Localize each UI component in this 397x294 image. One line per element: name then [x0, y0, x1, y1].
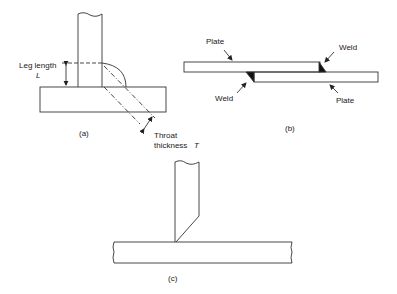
figure-a-fillet-weld — [40, 13, 166, 129]
weld-left — [246, 72, 254, 82]
plate-bottom-label: Plate — [336, 96, 355, 105]
weld-left-label: Weld — [215, 94, 233, 103]
plate-top-label: Plate — [206, 37, 225, 46]
base-plate-c — [113, 242, 292, 263]
bottom-plate — [254, 72, 378, 82]
top-plate — [184, 62, 320, 72]
caption-c: (c) — [168, 274, 178, 283]
vertical-member — [78, 13, 102, 87]
caption-a: (a) — [79, 129, 89, 138]
leg-length-symbol: L — [36, 71, 40, 80]
weld-right-label: Weld — [339, 43, 357, 52]
caption-b: (b) — [285, 124, 295, 133]
throat-dashed-2 — [104, 66, 155, 118]
base-plate — [40, 87, 166, 112]
weld-diagrams: Leg length L Throat thickness T (a) Plat… — [0, 0, 397, 294]
leg-length-label: Leg length — [19, 61, 56, 70]
figure-b-lap-joint — [184, 50, 378, 93]
throat-dim-arrow — [144, 117, 152, 129]
weld-right — [319, 62, 326, 72]
figure-c-bevel-joint — [113, 161, 292, 263]
fillet-weld-arc — [102, 63, 126, 87]
throat-label: Throat — [154, 131, 178, 140]
throat-dashed-1 — [104, 87, 140, 124]
beveled-member — [175, 161, 199, 242]
throat-label-2: thickness — [154, 141, 187, 150]
throat-symbol: T — [194, 141, 200, 150]
